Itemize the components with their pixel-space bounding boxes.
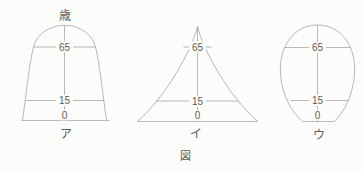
pyramid-a-name-label: ア <box>60 127 72 141</box>
pyramid-u-group: 65 15 0 ウ <box>280 25 354 142</box>
pyramid-a-age0-tick-label: 0 <box>62 110 68 121</box>
pyramid-i-age0-tick-label: 0 <box>195 110 201 121</box>
pyramid-i-left-outline <box>138 27 198 122</box>
pyramid-i-group: 65 15 0 イ <box>138 27 258 142</box>
pyramid-u-name-label: ウ <box>313 128 325 142</box>
pyramid-u-age65-tick-label: 65 <box>312 42 324 53</box>
pyramid-a-age15-tick-label: 15 <box>59 95 71 106</box>
pyramid-i-name-label: イ <box>190 127 202 141</box>
pyramid-i-age65-tick-label: 65 <box>192 42 204 53</box>
pyramid-a-age65-tick-label: 65 <box>59 42 71 53</box>
population-pyramid-figure: 歳 65 15 0 ア 65 15 0 イ <box>0 0 362 174</box>
age-unit-label: 歳 <box>59 9 71 23</box>
pyramid-i-age15-tick-label: 15 <box>192 96 204 107</box>
pyramid-i-right-outline <box>198 27 258 122</box>
pyramid-u-age0-tick-label: 0 <box>315 110 321 121</box>
pyramid-u-age15-tick-label: 15 <box>312 95 324 106</box>
figure-caption: 図 <box>180 150 191 162</box>
pyramid-a-group: 歳 65 15 0 ア <box>22 9 110 142</box>
figure-canvas: 歳 65 15 0 ア 65 15 0 イ <box>0 0 362 174</box>
